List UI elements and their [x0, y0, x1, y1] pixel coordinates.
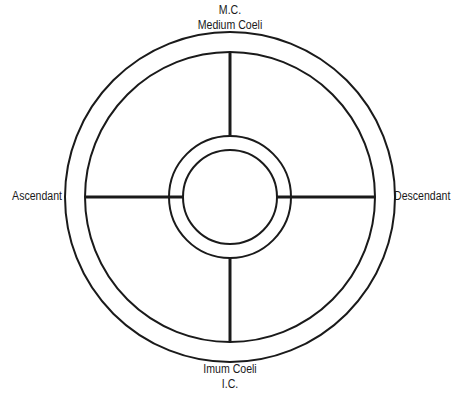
mc-name: Medium Coeli	[186, 18, 274, 33]
inner-ring-inner	[183, 150, 277, 244]
ic-name: Imum Coeli	[186, 362, 274, 377]
mc-abbreviation: M.C.	[186, 3, 274, 18]
midheaven-label: M.C. Medium Coeli	[186, 3, 274, 33]
ic-abbreviation: I.C.	[186, 377, 274, 392]
descendant-label: Descendant	[394, 189, 451, 204]
chart-wheel	[0, 0, 459, 394]
ascendant-label: Ascendant	[7, 189, 62, 204]
imum-coeli-label: Imum Coeli I.C.	[186, 362, 274, 392]
